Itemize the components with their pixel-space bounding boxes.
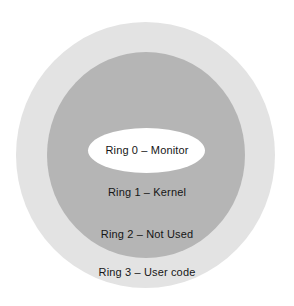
ring-0-label: Ring 0 – Monitor (0, 144, 294, 157)
ring-diagram: Ring 0 – Monitor Ring 1 – Kernel Ring 2 … (0, 0, 294, 306)
ring-3-label: Ring 3 – User code (0, 266, 294, 279)
ring-2-label: Ring 2 – Not Used (0, 228, 294, 241)
ring-1-label: Ring 1 – Kernel (0, 186, 294, 199)
